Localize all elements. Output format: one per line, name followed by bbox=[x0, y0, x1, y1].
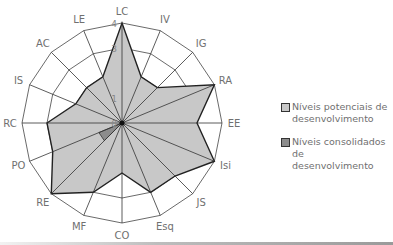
axis-label-RE: RE bbox=[36, 197, 49, 208]
legend-item-potential: Níveis potenciais de desenvolvimento bbox=[281, 101, 393, 125]
axis-label-EE: EE bbox=[228, 118, 241, 129]
center-dot bbox=[120, 121, 125, 126]
axis-label-JS: JS bbox=[196, 197, 206, 208]
axis-label-IG: IG bbox=[196, 38, 207, 49]
axis-label-Isi: Isi bbox=[220, 160, 231, 171]
axis-label-IV: IV bbox=[160, 14, 170, 25]
legend-label-line1: Níveis consolidados de bbox=[292, 136, 386, 159]
legend-label-line2: desenvolvimento bbox=[292, 113, 374, 124]
legend-swatch-consolidated bbox=[281, 138, 290, 147]
axis-label-RA: RA bbox=[219, 75, 233, 86]
axis-label-RC: RC bbox=[3, 118, 16, 129]
legend: Níveis potenciais de desenvolvimento Nív… bbox=[281, 101, 393, 183]
legend-label-line1: Níveis potenciais de bbox=[292, 101, 387, 112]
legend-label-potential: Níveis potenciais de desenvolvimento bbox=[292, 101, 387, 125]
legend-swatch-potential bbox=[281, 103, 290, 112]
axis-label-IS: IS bbox=[14, 75, 23, 86]
radar-chart: LCIVIGRAEEIsiJSEsqCOMFREPORCISACLE 0134 bbox=[0, 0, 260, 245]
axis-label-LC: LC bbox=[116, 6, 129, 17]
radar-series bbox=[47, 23, 214, 194]
axis-label-LE: LE bbox=[73, 14, 85, 25]
tick-label-1: 1 bbox=[111, 94, 117, 104]
legend-label-line2: desenvolvimento bbox=[292, 160, 374, 171]
axis-label-CO: CO bbox=[115, 230, 130, 241]
tick-label-4: 4 bbox=[111, 19, 117, 29]
series-0-area bbox=[47, 23, 214, 194]
legend-item-consolidated: Níveis consolidados de desenvolvimento bbox=[281, 136, 393, 172]
tick-label-3: 3 bbox=[111, 44, 117, 54]
axis-label-AC: AC bbox=[36, 38, 50, 49]
axis-label-PO: PO bbox=[12, 160, 26, 171]
axis-label-Esq: Esq bbox=[156, 221, 174, 232]
axis-label-MF: MF bbox=[72, 221, 87, 232]
tick-label-0: 0 bbox=[111, 119, 117, 129]
legend-label-consolidated: Níveis consolidados de desenvolvimento bbox=[292, 136, 393, 172]
